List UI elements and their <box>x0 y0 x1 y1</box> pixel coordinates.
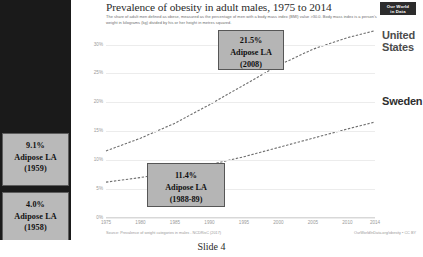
series-label-us-line1: United <box>382 29 415 41</box>
chart-title: Prevalence of obesity in adult males, 19… <box>106 1 332 13</box>
x-axis-tick: 2010 <box>342 220 352 225</box>
series-label-us-line2: States <box>382 41 414 53</box>
y-axis-tick: 20% <box>86 99 103 104</box>
grid-line <box>106 218 375 219</box>
slide-caption: Slide 4 <box>0 241 423 252</box>
adipose-2008-year: (2008) <box>219 59 283 71</box>
series-label-united-states: United States <box>382 29 415 54</box>
grid-line <box>106 102 375 103</box>
grid-line <box>106 73 375 74</box>
annotation-adipose-1959: 9.1% Adipose LA (1959) <box>2 133 69 186</box>
adipose-1988-value: 11.4% <box>148 170 224 182</box>
credit-note: OurWorldInData.org/obesity • CC BY <box>354 231 416 235</box>
left-sidebar: 9.1% Adipose LA (1959) 4.0% Adipose LA (… <box>0 0 71 240</box>
adipose-1988-year: (1988-89) <box>148 194 224 206</box>
chart-subtitle: The share of adult men defined as obese,… <box>106 14 386 26</box>
y-axis-tick: 30% <box>86 42 103 47</box>
y-axis-tick: 5% <box>86 186 103 191</box>
x-axis-tick: 1980 <box>135 220 145 225</box>
x-axis-tick: 2000 <box>273 220 283 225</box>
our-world-in-data-logo: Our World in Data <box>380 2 416 15</box>
y-axis-tick: 25% <box>86 70 103 75</box>
adipose-1958-label: Adipose LA <box>3 211 68 223</box>
y-axis-tick: 15% <box>86 128 103 133</box>
annotation-adipose-2008: 21.5% Adipose LA (2008) <box>218 30 284 70</box>
adipose-1959-label: Adipose LA <box>3 152 68 164</box>
series-label-sweden: Sweden <box>382 95 422 107</box>
grid-line <box>106 131 375 132</box>
x-axis-tick: 2014 <box>370 220 380 225</box>
annotation-adipose-1958: 4.0% Adipose LA (1958) <box>2 192 69 240</box>
x-axis-tick: 1975 <box>101 220 111 225</box>
x-axis-tick: 1990 <box>204 220 214 225</box>
x-axis-tick: 1995 <box>239 220 249 225</box>
chart-panel: Prevalence of obesity in adult males, 19… <box>71 0 423 240</box>
annotation-adipose-1988: 11.4% Adipose LA (1988-89) <box>147 163 225 207</box>
adipose-1959-value: 9.1% <box>3 140 68 152</box>
x-axis-tick: 2005 <box>308 220 318 225</box>
slide-canvas: 9.1% Adipose LA (1959) 4.0% Adipose LA (… <box>0 0 423 240</box>
x-axis-tick: 1985 <box>170 220 180 225</box>
source-note: Source: Prevalence of weight categories … <box>106 231 221 235</box>
adipose-1959-year: (1959) <box>3 163 68 175</box>
y-axis-tick: 10% <box>86 157 103 162</box>
adipose-1988-label: Adipose LA <box>148 182 224 194</box>
adipose-1958-year: (1958) <box>3 222 68 234</box>
grid-line <box>106 160 375 161</box>
adipose-2008-value: 21.5% <box>219 35 283 47</box>
logo-line-2: in Data <box>390 9 405 14</box>
adipose-1958-value: 4.0% <box>3 199 68 211</box>
adipose-2008-label: Adipose LA <box>219 47 283 59</box>
